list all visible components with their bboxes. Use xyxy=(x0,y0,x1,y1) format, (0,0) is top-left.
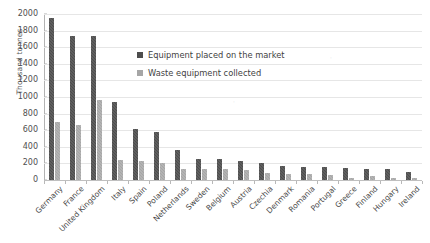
bar-collected[interactable] xyxy=(265,173,270,180)
bar-group xyxy=(317,14,338,180)
bar-group xyxy=(128,14,149,180)
legend-swatch-icon xyxy=(137,70,143,76)
bar-chart: Thousand tonnes 020040060080010001200140… xyxy=(0,0,430,243)
x-axis-tick-mark xyxy=(128,181,129,184)
y-axis-tick-label: 400 xyxy=(23,143,38,151)
bar-collected[interactable] xyxy=(349,178,354,180)
bar-market[interactable] xyxy=(91,36,96,180)
bar-collected[interactable] xyxy=(76,125,81,180)
bar-group xyxy=(380,14,401,180)
x-axis-tick-mark xyxy=(317,181,318,184)
bar-market[interactable] xyxy=(217,159,222,180)
bar-market[interactable] xyxy=(343,168,348,180)
chart-legend: Equipment placed on the marketWaste equi… xyxy=(137,50,327,86)
x-axis-tick-mark xyxy=(380,181,381,184)
bar-market[interactable] xyxy=(259,163,264,180)
y-axis-tick-labels: 0200400600800100012001400160018002000 xyxy=(0,14,44,180)
bar-market[interactable] xyxy=(406,172,411,180)
x-axis-category-label: Germany xyxy=(34,185,64,215)
bar-collected[interactable] xyxy=(286,174,291,180)
x-axis-tick-mark xyxy=(191,181,192,184)
x-axis-category-labels: GermanyFranceUnited KingdomItalySpainPol… xyxy=(44,185,422,243)
y-axis-tick-label: 0 xyxy=(33,176,38,184)
bar-market[interactable] xyxy=(238,161,243,181)
bar-collected[interactable] xyxy=(412,178,417,180)
x-axis-category-label: Italy xyxy=(110,185,127,202)
bar-market[interactable] xyxy=(133,129,138,180)
bar-market[interactable] xyxy=(49,18,54,180)
legend-item[interactable]: Waste equipment collected xyxy=(137,68,327,78)
bar-market[interactable] xyxy=(175,150,180,180)
bar-collected[interactable] xyxy=(97,100,102,180)
bar-market[interactable] xyxy=(301,167,306,180)
bar-group xyxy=(86,14,107,180)
bar-group xyxy=(359,14,380,180)
y-axis-tick-label: 1200 xyxy=(18,76,38,84)
bar-market[interactable] xyxy=(322,167,327,180)
x-axis-tick-mark xyxy=(65,181,66,184)
bar-collected[interactable] xyxy=(244,170,249,180)
legend-item[interactable]: Equipment placed on the market xyxy=(137,50,327,60)
bar-market[interactable] xyxy=(364,169,369,180)
x-axis-tick-mark xyxy=(44,181,45,184)
x-axis-tick-mark xyxy=(170,181,171,184)
bar-group xyxy=(233,14,254,180)
bar-group xyxy=(107,14,128,180)
bar-market[interactable] xyxy=(154,132,159,180)
x-axis-tick-mark xyxy=(338,181,339,184)
x-axis-category-label: Greece xyxy=(333,185,357,209)
x-axis-category-label: Ireland xyxy=(397,185,421,209)
x-axis-tick-mark xyxy=(401,181,402,184)
x-axis-tick-mark xyxy=(149,181,150,184)
bar-group xyxy=(191,14,212,180)
bar-collected[interactable] xyxy=(202,169,207,180)
bar-collected[interactable] xyxy=(181,169,186,180)
x-axis-tick-mark xyxy=(422,181,423,184)
bar-group xyxy=(65,14,86,180)
bar-collected[interactable] xyxy=(118,160,123,180)
x-axis-tick-mark xyxy=(296,181,297,184)
bar-collected[interactable] xyxy=(160,163,165,180)
bar-group xyxy=(44,14,65,180)
y-axis-tick-label: 800 xyxy=(23,110,38,118)
bar-collected[interactable] xyxy=(307,174,312,180)
bar-group xyxy=(254,14,275,180)
bar-collected[interactable] xyxy=(370,176,375,180)
legend-label: Equipment placed on the market xyxy=(148,50,285,60)
legend-swatch-icon xyxy=(137,52,143,58)
bar-collected[interactable] xyxy=(328,175,333,180)
bar-market[interactable] xyxy=(385,169,390,180)
legend-label: Waste equipment collected xyxy=(148,68,261,78)
bar-market[interactable] xyxy=(70,36,75,180)
bar-market[interactable] xyxy=(112,102,117,180)
bar-group xyxy=(296,14,317,180)
bar-group xyxy=(212,14,233,180)
x-axis-tick-mark xyxy=(107,181,108,184)
plot-area xyxy=(44,14,422,180)
bar-collected[interactable] xyxy=(391,178,396,180)
y-axis-tick-label: 1600 xyxy=(18,43,38,51)
x-axis-tick-mark xyxy=(275,181,276,184)
x-axis-tick-mark xyxy=(359,181,360,184)
y-axis-tick-label: 1000 xyxy=(18,93,38,101)
bar-market[interactable] xyxy=(196,159,201,180)
bar-collected[interactable] xyxy=(55,122,60,180)
y-axis-tick-label: 1400 xyxy=(18,60,38,68)
x-axis-tick-mark xyxy=(254,181,255,184)
x-axis-tick-mark xyxy=(212,181,213,184)
bar-collected[interactable] xyxy=(223,169,228,180)
bar-group xyxy=(338,14,359,180)
x-axis-tick-mark xyxy=(233,181,234,184)
y-axis-tick-label: 200 xyxy=(23,159,38,167)
x-axis-tick-mark xyxy=(86,181,87,184)
bar-collected[interactable] xyxy=(139,161,144,180)
bar-group xyxy=(170,14,191,180)
y-axis-tick-label: 2000 xyxy=(18,10,38,18)
bars-layer xyxy=(44,14,422,180)
bar-group xyxy=(401,14,422,180)
y-axis-tick-label: 600 xyxy=(23,126,38,134)
y-axis-tick-label: 1800 xyxy=(18,27,38,35)
bar-group xyxy=(275,14,296,180)
bar-group xyxy=(149,14,170,180)
bar-market[interactable] xyxy=(280,166,285,180)
